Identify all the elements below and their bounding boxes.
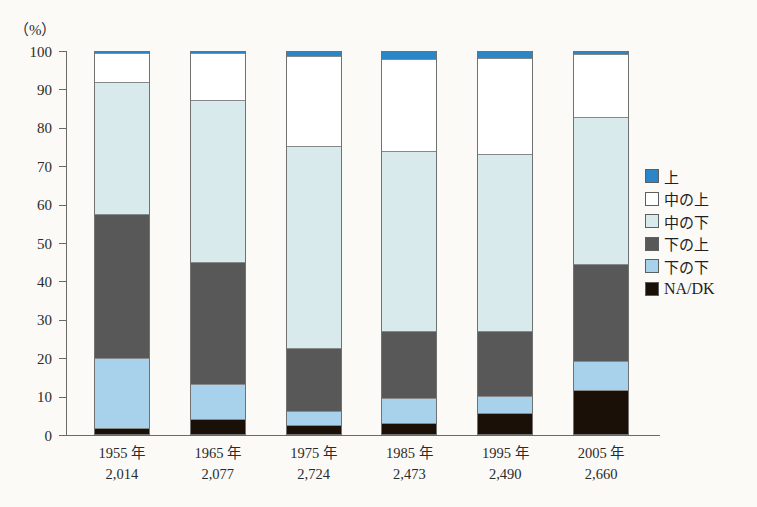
y-tick: 50 (59, 243, 66, 244)
bar-segment[interactable] (478, 331, 532, 396)
x-axis-label-count: 2,724 (259, 464, 369, 485)
legend-item[interactable]: 上 (645, 165, 755, 188)
y-tick: 30 (59, 320, 66, 321)
bar-segment[interactable] (287, 146, 341, 348)
y-tick-label: 20 (37, 350, 52, 367)
legend-item[interactable]: 下の上 (645, 233, 755, 256)
bar-segment[interactable] (287, 348, 341, 411)
x-axis-label-count: 2,077 (163, 464, 273, 485)
bar-segment[interactable] (95, 358, 149, 429)
bar-segment[interactable] (95, 82, 149, 214)
x-axis-label-group: 1965 年2,077 (163, 443, 273, 485)
bar-segment[interactable] (191, 262, 245, 384)
bar-segment[interactable] (574, 361, 628, 390)
bar-segment[interactable] (382, 331, 436, 399)
y-tick-label: 90 (37, 81, 52, 98)
x-axis-label-year: 1965 年 (163, 443, 273, 464)
bar-segment[interactable] (191, 53, 245, 100)
y-tick: 80 (59, 128, 66, 129)
legend-label: 下の上 (664, 233, 709, 254)
y-tick-label: 40 (37, 273, 52, 290)
bar-segment[interactable] (478, 413, 532, 434)
x-axis-label-group: 1995 年2,490 (450, 443, 560, 485)
y-tick: 40 (59, 281, 66, 282)
bar-3[interactable] (286, 51, 342, 435)
legend-swatch (645, 214, 659, 228)
y-tick: 20 (59, 358, 66, 359)
bar-segment[interactable] (478, 58, 532, 154)
x-axis-label-year: 1975 年 (259, 443, 369, 464)
legend-label: 下の下 (664, 256, 709, 277)
bar-segment[interactable] (574, 390, 628, 434)
y-tick-label: 80 (37, 120, 52, 137)
y-tick: 70 (59, 166, 66, 167)
bar-2[interactable] (190, 51, 246, 435)
bar-group (66, 51, 641, 435)
y-tick: 60 (59, 205, 66, 206)
bar-segment[interactable] (382, 151, 436, 331)
legend-swatch (645, 282, 659, 296)
bar-segment[interactable] (478, 154, 532, 331)
x-axis-label-group: 2005 年2,660 (546, 443, 656, 485)
bar-segment[interactable] (287, 411, 341, 425)
bar-segment[interactable] (95, 214, 149, 358)
x-axis-label-year: 1995 年 (450, 443, 560, 464)
y-tick-label: 30 (37, 312, 52, 329)
y-tick: 100 (59, 51, 66, 52)
bar-5[interactable] (477, 51, 533, 435)
legend-swatch (645, 237, 659, 251)
bar-segment[interactable] (287, 425, 341, 434)
bar-segment[interactable] (382, 59, 436, 151)
bar-4[interactable] (381, 51, 437, 435)
bar-segment[interactable] (95, 428, 149, 434)
legend-item[interactable]: 中の上 (645, 188, 755, 211)
legend-swatch (645, 169, 659, 183)
bar-segment[interactable] (574, 117, 628, 264)
bar-segment[interactable] (191, 419, 245, 434)
legend-swatch (645, 192, 659, 206)
y-tick: 10 (59, 397, 66, 398)
stacked-bar-chart: （%） 0102030405060708090100 1955 年2,01419… (0, 0, 757, 507)
x-axis-line (66, 435, 660, 436)
legend-item[interactable]: 下の下 (645, 255, 755, 278)
plot-area: 0102030405060708090100 (66, 51, 641, 435)
legend-label: NA/DK (664, 280, 715, 298)
bar-segment[interactable] (382, 398, 436, 422)
bar-segment[interactable] (95, 53, 149, 82)
legend-item[interactable]: NA/DK (645, 278, 755, 301)
x-axis-label-count: 2,014 (67, 464, 177, 485)
y-tick-label: 50 (37, 235, 52, 252)
x-axis-label-count: 2,660 (546, 464, 656, 485)
legend-label: 中の上 (664, 188, 709, 209)
bar-segment[interactable] (191, 100, 245, 262)
legend-swatch (645, 259, 659, 273)
legend: 上中の上中の下下の上下の下NA/DK (645, 165, 755, 300)
x-axis-label-year: 2005 年 (546, 443, 656, 464)
bar-segment[interactable] (382, 423, 436, 434)
x-axis-labels: 1955 年2,0141965 年2,0771975 年2,7241985 年2… (66, 443, 641, 503)
x-axis-label-group: 1955 年2,014 (67, 443, 177, 485)
y-axis-unit-label: （%） (14, 18, 57, 39)
legend-label: 上 (664, 166, 679, 187)
x-axis-label-group: 1975 年2,724 (259, 443, 369, 485)
bar-segment[interactable] (574, 264, 628, 361)
bar-1[interactable] (94, 51, 150, 435)
bar-segment[interactable] (478, 396, 532, 413)
bar-segment[interactable] (287, 56, 341, 146)
bar-segment[interactable] (191, 384, 245, 419)
y-tick-label: 60 (37, 197, 52, 214)
bar-segment[interactable] (382, 52, 436, 59)
x-axis-label-group: 1985 年2,473 (354, 443, 464, 485)
y-tick-label: 0 (45, 427, 53, 444)
y-tick: 90 (59, 89, 66, 90)
legend-item[interactable]: 中の下 (645, 210, 755, 233)
legend-label: 中の下 (664, 211, 709, 232)
y-tick-label: 10 (37, 389, 52, 406)
x-axis-label-count: 2,490 (450, 464, 560, 485)
bar-6[interactable] (573, 51, 629, 435)
y-tick: 0 (59, 435, 66, 436)
x-axis-label-count: 2,473 (354, 464, 464, 485)
x-axis-label-year: 1955 年 (67, 443, 177, 464)
bar-segment[interactable] (574, 54, 628, 117)
y-tick-label: 70 (37, 158, 52, 175)
